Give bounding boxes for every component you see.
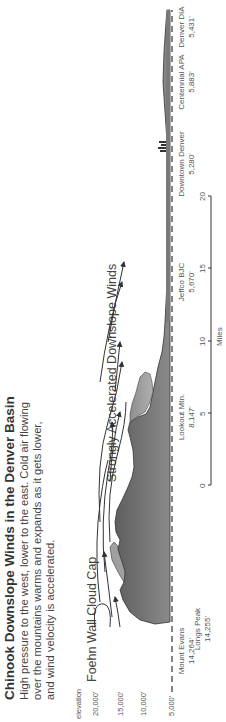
location-longs-peak: Longs Peak 14,255' <box>193 594 212 664</box>
scale-tick-10: 10 <box>198 337 207 346</box>
location-jeffco-bjc: Jeffco BJC 5,670' <box>177 247 196 317</box>
scale-tick-15: 15 <box>198 264 207 273</box>
chinook-diagram: Chinook Downslope Winds in the Denver Ba… <box>0 0 226 722</box>
scale-tick-0: 0 <box>198 484 207 488</box>
mountain-range-shape <box>115 10 170 624</box>
location-lookout-mtn: Lookout Mtn. 8,147' <box>177 382 196 452</box>
scale-unit-label: Miles <box>215 327 224 346</box>
plains-strip <box>166 10 170 322</box>
scale-tick-5: 5 <box>198 412 207 416</box>
miles-scale-bar <box>208 196 211 485</box>
location-downtown-denver: Downtown Denver 5,280' <box>177 124 196 204</box>
location-denver-dia: Denver DIA 5,431' <box>177 0 196 57</box>
scale-tick-20: 20 <box>198 192 207 201</box>
downtown-buildings-icon <box>158 141 166 152</box>
